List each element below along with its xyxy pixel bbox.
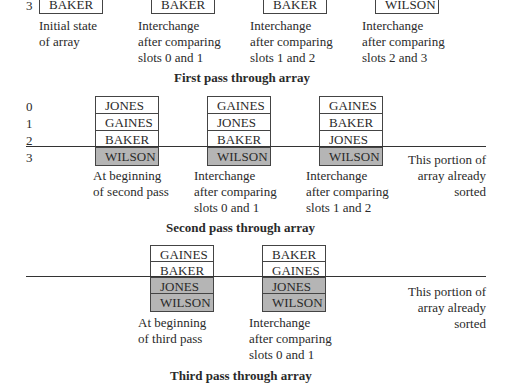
array-cell: BAKER bbox=[263, 0, 327, 14]
array-cell-sorted: WILSON bbox=[319, 147, 383, 166]
pass2-title: Second pass through array bbox=[166, 220, 315, 236]
sorted-portion-note: This portion of array already sorted bbox=[400, 284, 486, 332]
sorted-divider-line bbox=[26, 276, 486, 277]
array-cell-sorted: WILSON bbox=[262, 293, 326, 312]
slot-index-1: 1 bbox=[26, 116, 33, 132]
state-caption: Interchange after comparing slots 1 and … bbox=[250, 18, 333, 66]
array-cell-sorted: WILSON bbox=[150, 293, 214, 312]
pass1-title: First pass through array bbox=[174, 70, 310, 86]
pass3-title: Third pass through array bbox=[170, 368, 312, 384]
sorted-divider-line bbox=[26, 146, 486, 147]
state-caption: At beginning of third pass bbox=[138, 315, 206, 347]
state-caption: Interchange after comparing slots 1 and … bbox=[306, 168, 389, 216]
state-caption: Interchange after comparing slots 2 and … bbox=[362, 18, 445, 66]
state-caption: Interchange after comparing slots 0 and … bbox=[138, 18, 221, 66]
state-caption: At beginning of second pass bbox=[93, 168, 169, 200]
slot-index-0: 0 bbox=[26, 99, 33, 115]
array-cell: BAKER bbox=[39, 0, 103, 14]
array-cell: BAKER bbox=[151, 0, 215, 14]
slot-index-3: 3 bbox=[26, 150, 33, 166]
sorted-portion-note: This portion of array already sorted bbox=[400, 152, 486, 200]
state-caption: Interchange after comparing slots 0 and … bbox=[194, 168, 277, 216]
slot-index-3: 3 bbox=[26, 0, 33, 14]
array-cell-sorted: WILSON bbox=[95, 147, 159, 166]
state-caption: Interchange after comparing slots 0 and … bbox=[249, 315, 332, 363]
array-cell: WILSON bbox=[375, 0, 439, 14]
state-caption: Initial state of array bbox=[39, 18, 97, 50]
array-cell-sorted: WILSON bbox=[207, 147, 271, 166]
